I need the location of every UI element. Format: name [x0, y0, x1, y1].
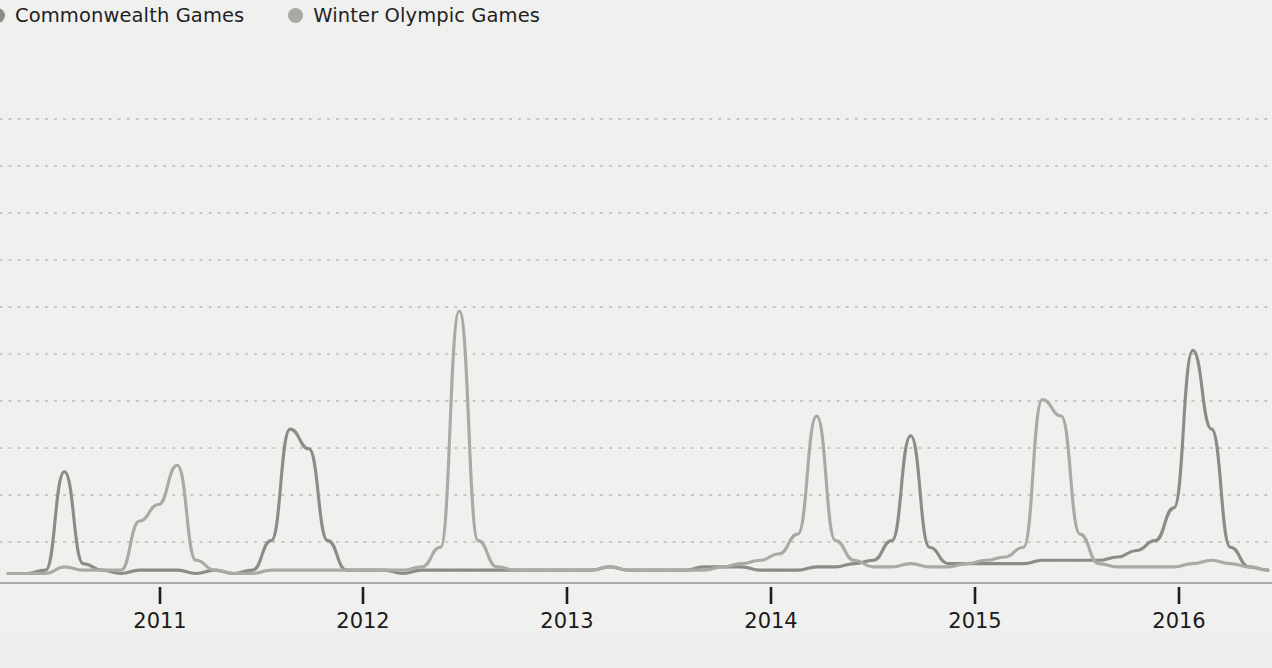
series-line-commonwealth-games[interactable] — [8, 350, 1268, 573]
x-axis-label-2016: 2016 — [1152, 609, 1205, 633]
x-axis-label-2011: 2011 — [133, 609, 186, 633]
x-axis-label-2014: 2014 — [744, 609, 797, 633]
line-chart-plot — [0, 0, 1272, 668]
x-axis-label-2013: 2013 — [540, 609, 593, 633]
legend-dot-icon — [0, 8, 5, 23]
legend-item-commonwealth-games[interactable]: Commonwealth Games — [0, 4, 244, 27]
legend-item-winter-olympic-games[interactable]: Winter Olympic Games — [288, 4, 540, 27]
gridline-group — [0, 119, 1272, 542]
legend-label-winter-olympic-games: Winter Olympic Games — [313, 4, 540, 27]
x-axis-label-2012: 2012 — [336, 609, 389, 633]
chart-legend: Commonwealth Games Winter Olympic Games — [0, 4, 540, 27]
x-axis-label-2015: 2015 — [948, 609, 1001, 633]
x-axis-tick-group — [160, 587, 1179, 604]
series-group — [8, 311, 1268, 573]
legend-dot-icon — [288, 8, 303, 23]
chart-screenshot: Commonwealth Games Winter Olympic Games … — [0, 0, 1272, 668]
legend-label-commonwealth-games: Commonwealth Games — [15, 4, 244, 27]
series-line-winter-olympic-games[interactable] — [8, 311, 1268, 573]
